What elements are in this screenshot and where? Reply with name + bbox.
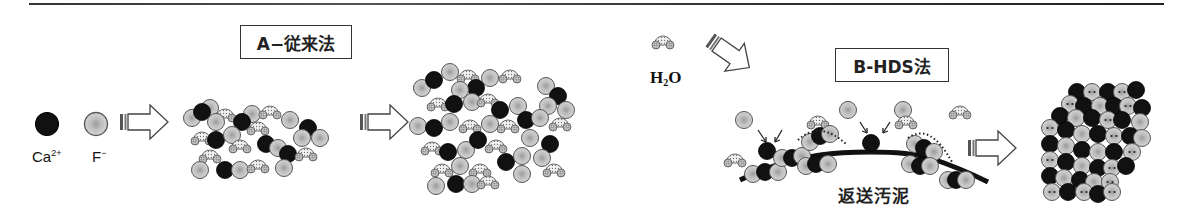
arrow-down-right-icon (710, 40, 780, 100)
hds-dense-crystal (1032, 80, 1172, 205)
fluoride-label: F− (92, 148, 106, 165)
conventional-aggregate-cluster (410, 58, 580, 203)
top-rule (29, 3, 1164, 5)
water-formula-label: H2O (650, 68, 681, 88)
water-molecule-icon (648, 30, 678, 54)
conventional-floc-cluster (180, 90, 340, 190)
returned-sludge-label: 返送汚泥 (838, 182, 910, 207)
fluoride-ion-icon (82, 110, 112, 140)
arrow-right-icon (968, 148, 1028, 188)
arrow-right-icon (120, 122, 180, 162)
calcium-ion-icon (33, 110, 63, 140)
calcium-label: Ca2+ (32, 148, 61, 165)
conventional-method-label: A−従来法 (240, 25, 352, 59)
hds-method-label: B-HDS法 (835, 48, 949, 82)
